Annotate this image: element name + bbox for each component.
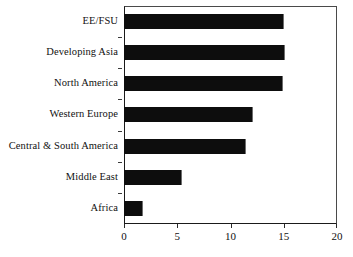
category-tick [118, 193, 122, 194]
category-label: Africa [0, 202, 118, 214]
category-tick [118, 131, 122, 132]
bar-chart-figure: EE/FSUDeveloping AsiaNorth AmericaWester… [0, 0, 353, 257]
bar-row [124, 193, 337, 224]
bar [124, 139, 246, 154]
bar-row [124, 6, 337, 37]
value-tick-label: 15 [269, 230, 299, 243]
category-label: Middle East [0, 171, 118, 183]
category-label: Western Europe [0, 108, 118, 120]
category-tick [118, 37, 122, 38]
bar-row [124, 162, 337, 193]
bar-row [124, 131, 337, 162]
category-label: Central & South America [0, 140, 118, 152]
value-tick-label: 20 [322, 230, 352, 243]
value-tick-label: 10 [216, 230, 246, 243]
value-tick [124, 224, 125, 228]
bars-container [124, 6, 337, 224]
value-tick-label: 5 [162, 230, 192, 243]
value-axis: 05101520 [124, 224, 337, 257]
bar-row [124, 68, 337, 99]
value-tick [336, 224, 337, 228]
category-tick [118, 162, 122, 163]
bar [124, 76, 283, 91]
category-tick [118, 99, 122, 100]
value-tick [177, 224, 178, 228]
category-label: Developing Asia [0, 46, 118, 58]
category-label: North America [0, 77, 118, 89]
bar [124, 201, 143, 216]
bar-row [124, 99, 337, 130]
category-tick [118, 68, 122, 69]
value-tick [284, 224, 285, 228]
bar-row [124, 37, 337, 68]
bar [124, 107, 253, 122]
bar [124, 14, 284, 29]
bar [124, 45, 285, 60]
value-tick [231, 224, 232, 228]
value-tick-label: 0 [109, 230, 139, 243]
category-label: EE/FSU [0, 15, 118, 27]
bar [124, 170, 182, 185]
category-axis-labels: EE/FSUDeveloping AsiaNorth AmericaWester… [0, 6, 118, 224]
